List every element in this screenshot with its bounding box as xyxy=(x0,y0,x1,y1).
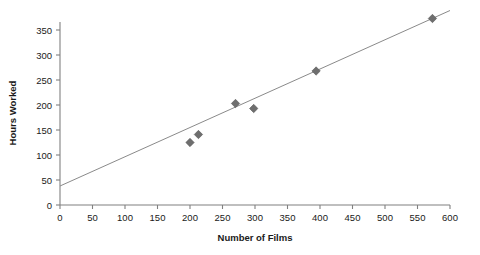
y-tick-label: 100 xyxy=(36,150,52,161)
x-tick-label: 0 xyxy=(57,212,62,223)
x-axis-ticks xyxy=(60,205,450,209)
x-tick-label: 450 xyxy=(345,212,361,223)
y-axis-title: Hours Worked xyxy=(7,80,18,145)
y-tick-label: 150 xyxy=(36,125,52,136)
x-tick-label: 300 xyxy=(247,212,263,223)
y-tick-label: 200 xyxy=(36,100,52,111)
x-tick-label: 550 xyxy=(410,212,426,223)
trend-line-segment xyxy=(60,11,450,187)
x-tick-label: 100 xyxy=(117,212,133,223)
y-tick-label: 300 xyxy=(36,50,52,61)
y-tick-label: 0 xyxy=(47,200,52,211)
axis-group xyxy=(60,22,450,205)
y-tick-label: 50 xyxy=(41,175,52,186)
data-point-marker xyxy=(250,104,258,112)
chart-canvas: 050100150200250300350 050100150200250300… xyxy=(0,0,480,255)
x-tick-label: 50 xyxy=(87,212,98,223)
trend-line xyxy=(60,11,450,187)
x-axis-tick-labels: 050100150200250300350400450500550600 xyxy=(57,212,458,223)
x-tick-label: 200 xyxy=(182,212,198,223)
x-tick-label: 350 xyxy=(280,212,296,223)
y-tick-label: 350 xyxy=(36,25,52,36)
x-tick-label: 400 xyxy=(312,212,328,223)
data-point-marker xyxy=(194,130,202,138)
data-points xyxy=(186,14,437,146)
data-point-marker xyxy=(312,67,320,75)
scatter-chart: 050100150200250300350 050100150200250300… xyxy=(0,0,480,255)
y-tick-label: 250 xyxy=(36,75,52,86)
x-tick-label: 600 xyxy=(442,212,458,223)
data-point-marker xyxy=(428,14,436,22)
y-axis-tick-labels: 050100150200250300350 xyxy=(36,25,52,211)
x-axis-title: Number of Films xyxy=(218,232,293,243)
data-point-marker xyxy=(231,99,239,107)
x-tick-label: 250 xyxy=(215,212,231,223)
x-tick-label: 150 xyxy=(150,212,166,223)
x-tick-label: 500 xyxy=(377,212,393,223)
data-point-marker xyxy=(186,138,194,146)
y-axis-ticks xyxy=(56,30,60,205)
